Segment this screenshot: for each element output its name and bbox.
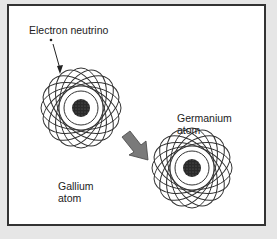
neutrino-label: Electron neutrino — [29, 24, 108, 36]
neutrino-dot — [50, 39, 53, 42]
germanium-nucleus — [183, 159, 201, 177]
gallium-atom — [36, 63, 127, 154]
germanium-atom — [147, 123, 238, 214]
gallium-nucleus — [72, 99, 90, 117]
neutrino-arrow-icon — [53, 44, 63, 74]
diagram-panel: Electron neutrino Gallium atom Germanium… — [7, 4, 266, 226]
germanium-label: Germanium atom — [177, 112, 232, 136]
transform-arrow-icon — [122, 131, 148, 160]
gallium-label: Gallium atom — [58, 180, 94, 204]
